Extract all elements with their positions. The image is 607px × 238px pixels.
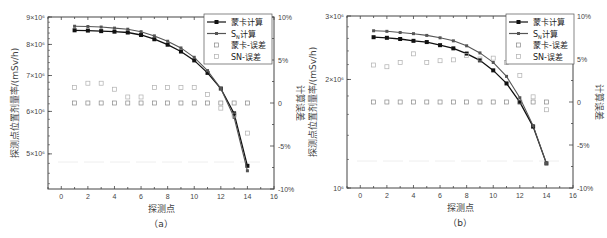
y-tick-label: 9×10⁶ xyxy=(26,14,45,21)
y-tick-label: 2×10⁶ xyxy=(325,76,344,83)
x-tick-label: 4 xyxy=(412,192,416,199)
y2-axis-label: 计算误差 xyxy=(594,84,605,120)
legend: 蒙卡计算SN计算蒙卡-误差SN-误差 xyxy=(204,14,272,64)
data-point xyxy=(399,31,402,34)
data-point xyxy=(452,39,455,42)
error-point xyxy=(372,100,376,104)
error-point xyxy=(112,87,116,91)
data-point xyxy=(451,46,455,50)
error-point xyxy=(438,59,442,63)
y-tick-label: 3×10⁶ xyxy=(325,13,344,20)
x-tick-label: 6 xyxy=(139,193,143,200)
error-point xyxy=(411,100,415,104)
x-tick-label: 10 xyxy=(190,193,198,200)
data-point xyxy=(545,162,548,165)
error-point xyxy=(385,65,389,69)
data-point xyxy=(385,36,389,40)
error-point xyxy=(152,86,156,90)
data-point xyxy=(166,40,169,43)
y-tick-label: 8×10⁶ xyxy=(26,41,45,48)
error-point xyxy=(166,101,170,105)
svg-text:蒙卡计算: 蒙卡计算 xyxy=(231,17,263,27)
y2-tick-label: -10% xyxy=(278,186,294,193)
error-point xyxy=(152,101,156,105)
y2-tick-label: 0 xyxy=(577,99,581,106)
data-point xyxy=(86,29,90,33)
data-point xyxy=(193,56,196,59)
data-point xyxy=(439,36,442,39)
error-point xyxy=(139,101,143,105)
data-point xyxy=(246,169,249,172)
x-tick-label: 0 xyxy=(358,192,362,199)
y-axis-right: -10%-5%05%10%计算误差 xyxy=(270,14,306,193)
svg-text:SN-误差: SN-误差 xyxy=(231,52,261,62)
svg-text:蒙卡-误差: 蒙卡-误差 xyxy=(533,40,568,50)
y2-axis-label: 计算误差 xyxy=(295,85,306,121)
series-2 xyxy=(73,101,250,105)
y-tick-label: 6×10⁶ xyxy=(26,108,45,115)
error-point xyxy=(465,100,469,104)
svg-text:SN计算: SN计算 xyxy=(231,29,256,40)
error-point xyxy=(544,108,548,112)
y-axis-label: 探测点位置剂量率/(mSv/h) xyxy=(307,47,318,158)
error-point xyxy=(245,101,249,105)
x-tick-label: 2 xyxy=(385,192,389,199)
y2-tick-label: -10% xyxy=(577,185,593,192)
data-point xyxy=(492,61,495,64)
data-point xyxy=(112,30,116,34)
error-point xyxy=(73,86,77,90)
x-tick-label: 8 xyxy=(166,193,170,200)
svg-text:SN计算: SN计算 xyxy=(533,29,558,40)
error-point xyxy=(99,81,103,85)
data-point xyxy=(372,29,375,32)
error-point xyxy=(518,73,522,77)
error-point xyxy=(206,101,210,105)
data-point xyxy=(491,68,495,72)
y-tick-label: 5×10⁶ xyxy=(26,150,45,157)
x-tick-label: 10 xyxy=(489,192,497,199)
data-point xyxy=(425,34,428,37)
data-point xyxy=(412,32,415,35)
data-point xyxy=(139,33,143,37)
error-point xyxy=(219,101,223,105)
data-point xyxy=(179,50,183,54)
y2-tick-label: -5% xyxy=(278,143,290,150)
legend: 蒙卡计算SN计算蒙卡-误差SN-误差 xyxy=(506,14,574,64)
series-2 xyxy=(372,100,549,104)
y-axis-left: 5×10⁶6×10⁶7×10⁶8×10⁶9×10⁶探测点位置剂量率/(mSv/h… xyxy=(9,14,52,184)
x-tick-label: 6 xyxy=(438,192,442,199)
data-point xyxy=(99,29,103,33)
data-point xyxy=(126,31,130,35)
error-point xyxy=(192,101,196,105)
x-tick-label: 8 xyxy=(465,192,469,199)
chart-panel-a: 0246810121416探测点（a）5×10⁶6×10⁶7×10⁶8×10⁶9… xyxy=(9,14,306,230)
error-point xyxy=(126,101,130,105)
data-point xyxy=(478,58,482,62)
x-axis-label: 探测点 xyxy=(447,202,474,213)
y-axis-label: 探测点位置剂量率/(mSv/h) xyxy=(9,48,20,159)
data-point xyxy=(166,43,170,47)
error-point xyxy=(126,95,130,99)
data-point xyxy=(478,51,481,54)
error-point xyxy=(544,100,548,104)
y2-tick-label: 10% xyxy=(278,14,292,21)
data-point xyxy=(153,34,156,37)
data-point xyxy=(219,87,222,90)
panel-caption: （a） xyxy=(149,219,173,229)
x-tick-label: 2 xyxy=(86,193,90,200)
data-point xyxy=(179,46,182,49)
y2-tick-label: 5% xyxy=(278,57,288,64)
error-point xyxy=(206,92,210,96)
error-point xyxy=(411,52,415,56)
error-point xyxy=(179,86,183,90)
data-point xyxy=(73,28,77,32)
panel-caption: （b） xyxy=(448,218,472,228)
error-point xyxy=(385,100,389,104)
error-point xyxy=(451,100,455,104)
x-tick-label: 16 xyxy=(569,192,577,199)
error-point xyxy=(219,106,223,110)
error-point xyxy=(505,100,509,104)
error-point xyxy=(86,101,90,105)
data-point xyxy=(505,81,509,85)
data-point xyxy=(465,44,468,47)
